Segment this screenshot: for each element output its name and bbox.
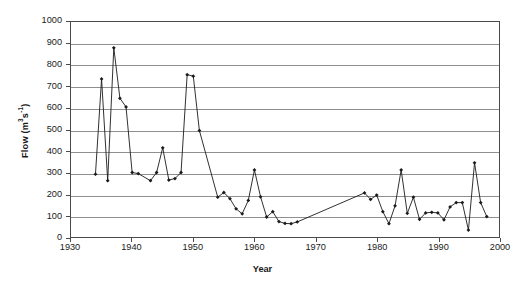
data-point bbox=[467, 228, 471, 232]
y-tick-label-200: 200 bbox=[47, 190, 62, 199]
data-series-flow bbox=[71, 22, 499, 237]
data-point bbox=[253, 168, 257, 172]
data-point bbox=[289, 222, 293, 226]
x-tick-label-2000: 2000 bbox=[490, 243, 510, 252]
x-tick-label-1970: 1970 bbox=[305, 243, 325, 252]
y-tick-label-800: 800 bbox=[47, 60, 62, 69]
data-point bbox=[485, 215, 489, 219]
data-point bbox=[136, 172, 140, 176]
data-point bbox=[198, 129, 202, 133]
x-tick-mark-1970 bbox=[316, 238, 317, 242]
x-tick-mark-1940 bbox=[131, 238, 132, 242]
data-point bbox=[167, 178, 171, 182]
data-point bbox=[246, 199, 250, 203]
y-tick-label-700: 700 bbox=[47, 82, 62, 91]
data-point bbox=[387, 222, 391, 226]
data-point bbox=[100, 77, 104, 81]
x-tick-mark-1930 bbox=[70, 238, 71, 242]
series-line-flow bbox=[95, 48, 486, 230]
y-tick-label-900: 900 bbox=[47, 38, 62, 47]
y-tick-label-300: 300 bbox=[47, 168, 62, 177]
x-tick-label-1940: 1940 bbox=[121, 243, 141, 252]
data-point bbox=[479, 201, 483, 205]
x-tick-mark-1980 bbox=[377, 238, 378, 242]
data-point bbox=[94, 172, 98, 176]
x-tick-label-1950: 1950 bbox=[183, 243, 203, 252]
data-point bbox=[412, 195, 416, 199]
x-axis-tick-labels: 19301940195019601970198019902000 bbox=[0, 243, 525, 257]
data-point bbox=[295, 220, 299, 224]
x-tick-label-1990: 1990 bbox=[428, 243, 448, 252]
flow-time-series-chart: Flow (m3s-1) 010020030040050060070080090… bbox=[0, 0, 525, 295]
y-tick-label-600: 600 bbox=[47, 103, 62, 112]
x-axis-title: Year bbox=[0, 264, 525, 274]
y-tick-label-1000: 1000 bbox=[42, 16, 62, 25]
data-point bbox=[185, 73, 189, 77]
y-axis-tick-labels: 01002003004005006007008009001000 bbox=[0, 0, 68, 260]
data-point bbox=[399, 168, 403, 172]
data-point bbox=[473, 161, 477, 165]
data-point bbox=[161, 146, 165, 150]
data-point bbox=[112, 46, 116, 50]
y-tick-label-100: 100 bbox=[47, 212, 62, 221]
x-tick-label-1980: 1980 bbox=[367, 243, 387, 252]
data-point bbox=[393, 204, 397, 208]
x-tick-mark-1960 bbox=[254, 238, 255, 242]
data-point bbox=[259, 195, 263, 199]
data-point bbox=[106, 179, 110, 183]
data-point bbox=[283, 222, 287, 226]
data-point bbox=[130, 171, 134, 175]
data-point bbox=[430, 210, 434, 214]
data-point bbox=[460, 201, 464, 205]
plot-area bbox=[70, 21, 500, 238]
y-tick-label-500: 500 bbox=[47, 125, 62, 134]
x-tick-label-1930: 1930 bbox=[60, 243, 80, 252]
x-tick-mark-2000 bbox=[500, 238, 501, 242]
x-tick-mark-1950 bbox=[193, 238, 194, 242]
data-point bbox=[405, 211, 409, 215]
x-tick-mark-1990 bbox=[439, 238, 440, 242]
data-point bbox=[381, 210, 385, 214]
data-point bbox=[191, 74, 195, 78]
y-tick-label-400: 400 bbox=[47, 147, 62, 156]
x-tick-label-1960: 1960 bbox=[244, 243, 264, 252]
